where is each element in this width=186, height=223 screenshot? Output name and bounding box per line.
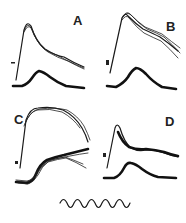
lower-trace-c3 <box>18 158 86 184</box>
upper-trace-d2 <box>118 132 178 156</box>
panel-label-d: D <box>165 114 174 129</box>
upper-trace-c3 <box>24 109 80 128</box>
stimulus-marker-d <box>103 153 106 157</box>
panel-label-a: A <box>73 13 83 28</box>
stimulus-marker-c <box>15 161 18 164</box>
panel-label-c: C <box>14 112 24 127</box>
panel-a: A <box>11 13 84 88</box>
stimulus-marker-a <box>11 62 15 64</box>
panel-label-b: B <box>166 19 175 34</box>
stimulus-marker-b <box>106 60 109 65</box>
lower-trace-b <box>107 68 176 89</box>
panel-d: D <box>103 114 178 178</box>
panel-c: C <box>14 107 90 184</box>
lower-trace-a <box>13 71 84 88</box>
calibration-sine-wave <box>60 200 130 208</box>
lower-trace-c1 <box>16 149 88 183</box>
lower-trace-d <box>104 163 176 178</box>
upper-trace-c2 <box>25 108 90 140</box>
panel-b: B <box>106 13 180 89</box>
figure-canvas: A B C D <box>0 0 186 223</box>
